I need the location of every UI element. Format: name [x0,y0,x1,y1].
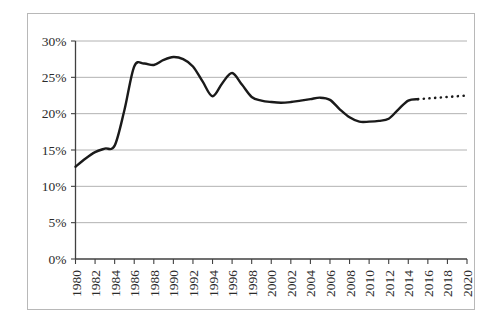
x-tick-label: 1990 [166,270,181,297]
x-tick-labels-group: 1980198219841986198819901992199419961998… [69,270,476,297]
y-tick-label: 30% [42,34,67,49]
x-tick-label: 1996 [225,270,240,297]
x-tick-label: 1982 [88,270,103,297]
y-tick-label: 10% [42,179,67,194]
x-tick-label: 1994 [206,270,221,297]
x-tick-label: 2018 [440,270,455,297]
y-tick-label: 0% [49,252,67,267]
x-tick-label: 1988 [147,270,162,297]
x-tick-label: 1992 [186,270,201,297]
series-line-projection [418,96,467,100]
x-tick-label: 2010 [362,270,377,297]
gridlines-group [76,41,468,259]
x-tick-label: 1998 [245,270,260,297]
x-tick-label: 2004 [303,270,318,297]
x-tick-label: 2020 [460,270,475,297]
line-chart-svg: 30%25%20%15%10%5%0% 19801982198419861988… [0,0,500,326]
x-tick-label: 2000 [264,270,279,297]
y-tick-label: 20% [42,106,67,121]
y-tick-label: 15% [42,143,67,158]
y-tick-label: 25% [42,70,67,85]
y-axis-group [71,41,76,259]
chart-figure: 30%25%20%15%10%5%0% 19801982198419861988… [0,0,500,326]
x-tick-label: 1986 [127,270,142,297]
x-tick-label: 2012 [382,270,397,297]
x-tick-label: 1980 [69,270,84,297]
x-tick-label: 1984 [108,270,123,297]
x-tick-label: 2014 [401,270,416,297]
x-tick-label: 2006 [323,270,338,297]
x-tick-label: 2016 [421,270,436,297]
x-tick-label: 2002 [284,270,299,297]
x-axis-group [76,259,468,264]
y-tick-label: 5% [49,215,67,230]
y-tick-labels-group: 30%25%20%15%10%5%0% [42,34,67,267]
x-tick-label: 2008 [343,270,358,297]
